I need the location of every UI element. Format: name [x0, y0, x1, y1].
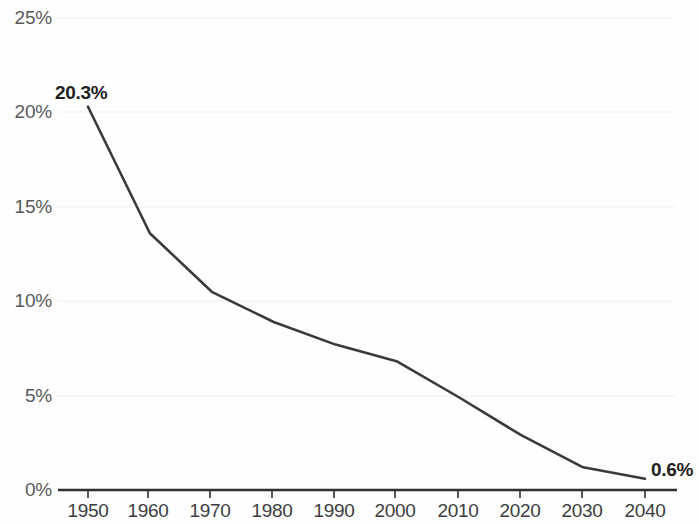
- x-tick-label-1960: 1960: [117, 500, 179, 522]
- x-axis-ticks: [88, 490, 645, 498]
- y-tick-label-20: 20%: [0, 101, 52, 123]
- x-tick-label-1950: 1950: [57, 500, 119, 522]
- y-tick-label-5: 5%: [0, 385, 52, 407]
- x-tick-label-2000: 2000: [364, 500, 426, 522]
- y-tick-label-0: 0%: [0, 479, 52, 501]
- x-tick-label-2020: 2020: [489, 500, 551, 522]
- data-line: [88, 107, 645, 479]
- line-chart: 25% 20% 15% 10% 5% 0% 1950 1960 1970 198…: [0, 0, 699, 524]
- x-tick-label-2010: 2010: [427, 500, 489, 522]
- y-tick-label-15: 15%: [0, 196, 52, 218]
- x-tick-label-2030: 2030: [551, 500, 613, 522]
- y-tick-label-25: 25%: [0, 7, 52, 29]
- start-value-annotation: 20.3%: [55, 82, 107, 104]
- x-tick-label-1980: 1980: [241, 500, 303, 522]
- chart-plot-area: [0, 0, 699, 524]
- end-value-annotation: 0.6%: [651, 459, 693, 481]
- y-tick-label-10: 10%: [0, 290, 52, 312]
- gridlines: [58, 18, 676, 396]
- x-tick-label-1970: 1970: [179, 500, 241, 522]
- x-tick-label-1990: 1990: [303, 500, 365, 522]
- x-tick-label-2040: 2040: [614, 500, 676, 522]
